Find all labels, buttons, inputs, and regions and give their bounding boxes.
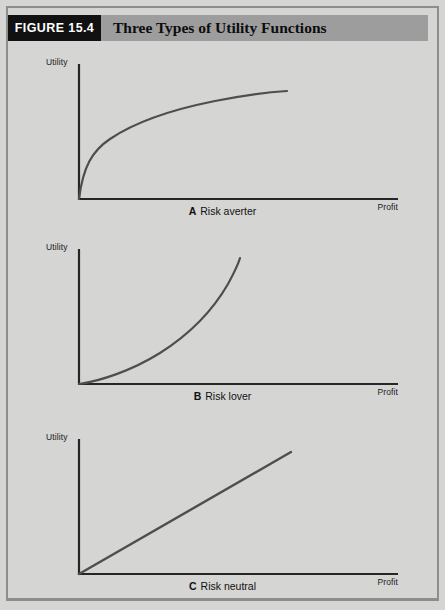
chart-b-y-axis-label: Utility [46, 242, 67, 252]
chart-c-y-axis-label: Utility [46, 432, 67, 442]
figure-title-band: Three Types of Utility Functions [101, 15, 428, 41]
figure-title: Three Types of Utility Functions [101, 19, 327, 37]
figure-number-band: FIGURE 15.4 [8, 15, 101, 41]
chart-b-svg [0, 240, 445, 392]
chart-b-caption-text: Risk lover [205, 390, 251, 402]
chart-a-svg [0, 55, 445, 207]
chart-a-caption: ARisk averter [0, 205, 445, 217]
chart-b-caption: BRisk lover [0, 390, 445, 402]
chart-b-caption-letter: B [194, 390, 202, 402]
chart-a-y-axis-label: Utility [46, 57, 67, 67]
figure-panel: FIGURE 15.4 Three Types of Utility Funct… [0, 0, 445, 610]
chart-c-caption: CRisk neutral [0, 580, 445, 592]
chart-a-plot: Utility Profit [0, 55, 445, 205]
chart-b-plot: Utility Profit [0, 240, 445, 390]
chart-c-caption-text: Risk neutral [201, 580, 256, 592]
chart-a-caption-text: Risk averter [200, 205, 256, 217]
chart-a-curve [79, 91, 287, 199]
chart-c-caption-letter: C [189, 580, 197, 592]
figure-number-label: FIGURE 15.4 [15, 21, 94, 35]
chart-c-svg [0, 430, 445, 582]
chart-c-line [79, 452, 291, 574]
chart-a-caption-letter: A [189, 205, 197, 217]
chart-c-plot: Utility Profit [0, 430, 445, 580]
chart-b-curve [79, 258, 240, 384]
frame-bottom-border [7, 598, 439, 601]
frame-top-border [7, 6, 439, 8]
figure-header: FIGURE 15.4 Three Types of Utility Funct… [8, 15, 428, 41]
